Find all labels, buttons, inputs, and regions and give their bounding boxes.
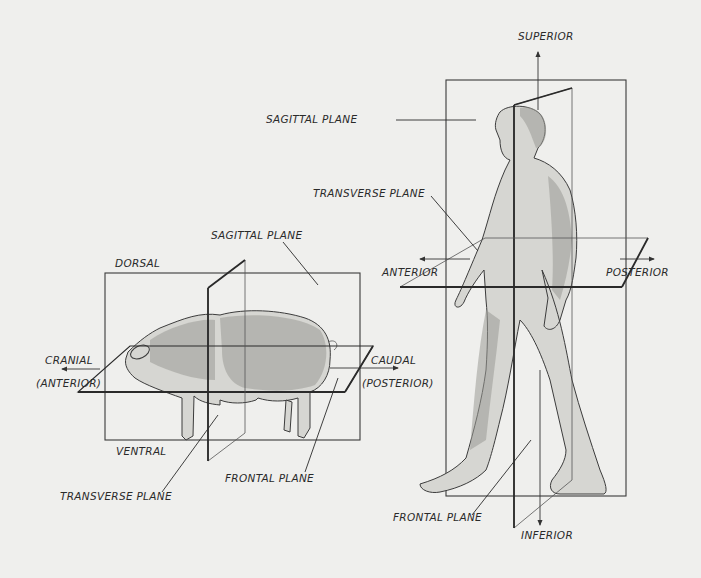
- human-figure-group: SUPERIOR SAGITTAL PLANE TRANSVERSE PLANE…: [266, 30, 669, 541]
- anatomical-planes-diagram: SAGITTAL PLANE DORSAL CRANIAL (ANTERIOR)…: [0, 0, 701, 578]
- pig-posterior-label: (POSTERIOR): [362, 377, 434, 389]
- anterior-label: ANTERIOR: [381, 266, 438, 278]
- pig-transverse-plane-top-edge: [208, 260, 245, 288]
- pig-transverse-plane-label: TRANSVERSE PLANE: [60, 490, 172, 502]
- diagram-canvas: SAGITTAL PLANE DORSAL CRANIAL (ANTERIOR)…: [0, 0, 701, 578]
- dorsal-label: DORSAL: [115, 257, 160, 269]
- inferior-label: INFERIOR: [521, 529, 573, 541]
- human-sagittal-plane-label: SAGITTAL PLANE: [266, 113, 357, 125]
- pig-sagittal-leader: [283, 242, 318, 285]
- pig-frontal-plane-label: FRONTAL PLANE: [225, 472, 314, 484]
- pig-figure-group: SAGITTAL PLANE DORSAL CRANIAL (ANTERIOR)…: [36, 229, 434, 502]
- pig-sagittal-plane-label: SAGITTAL PLANE: [211, 229, 302, 241]
- human-frontal-plane-top-edge: [514, 88, 572, 105]
- human-transverse-leader: [431, 196, 478, 251]
- caudal-label: CAUDAL: [371, 354, 416, 366]
- human-illustration: [420, 106, 606, 494]
- ventral-label: VENTRAL: [116, 445, 167, 457]
- human-transverse-plane-label: TRANSVERSE PLANE: [313, 187, 425, 199]
- cranial-label: CRANIAL: [45, 354, 93, 366]
- pig-anterior-label: (ANTERIOR): [36, 377, 101, 389]
- pig-illustration: [125, 311, 336, 440]
- human-frontal-plane-label: FRONTAL PLANE: [393, 511, 482, 523]
- superior-label: SUPERIOR: [518, 30, 574, 42]
- posterior-label: POSTERIOR: [606, 266, 669, 278]
